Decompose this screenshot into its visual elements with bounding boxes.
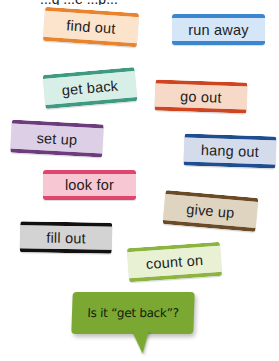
phrase-tag-set-up[interactable]: set up bbox=[10, 120, 104, 158]
phrase-tag-count-on[interactable]: count on bbox=[127, 242, 222, 282]
phrase-tag-label: look for bbox=[65, 177, 114, 193]
phrase-tag-label: set up bbox=[36, 129, 77, 147]
phrase-tag-look-for[interactable]: look for bbox=[43, 170, 136, 200]
phrase-tag-go-out[interactable]: go out bbox=[154, 79, 247, 113]
phrase-tag-find-out[interactable]: find out bbox=[43, 7, 139, 47]
phrase-tag-get-back[interactable]: get back bbox=[43, 67, 138, 109]
phrase-tag-give-up[interactable]: give up bbox=[163, 190, 259, 232]
phrase-tag-run-away[interactable]: run away bbox=[172, 14, 265, 45]
speech-bubble-tail bbox=[131, 330, 152, 354]
phrase-tag-label: count on bbox=[145, 252, 203, 272]
phrase-tag-label: hang out bbox=[201, 142, 260, 160]
phrase-tag-label: fill out bbox=[46, 229, 86, 246]
phrase-tag-label: run away bbox=[188, 22, 248, 38]
phrase-tag-hang-out[interactable]: hang out bbox=[183, 133, 276, 168]
phrase-tag-fill-out[interactable]: fill out bbox=[20, 221, 113, 254]
phrase-tag-label: go out bbox=[180, 88, 222, 105]
cut-off-instruction-text: ...g ...e ...p... bbox=[40, 0, 240, 5]
phrase-tag-label: give up bbox=[186, 201, 235, 221]
speech-bubble: Is it “get back”? bbox=[71, 292, 194, 334]
speech-bubble-text: Is it “get back”? bbox=[87, 306, 179, 320]
phrase-tag-label: find out bbox=[66, 17, 116, 36]
phrase-tag-label: get back bbox=[61, 78, 119, 99]
